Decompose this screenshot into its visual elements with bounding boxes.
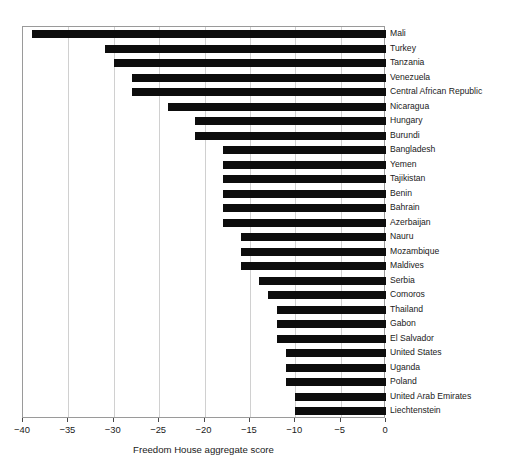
bar-row: [23, 346, 384, 361]
category-label: Turkey: [390, 41, 416, 56]
bar-row: [23, 100, 384, 115]
bar-row: [23, 245, 384, 260]
category-label: Mali: [390, 26, 406, 41]
bar: [223, 146, 386, 154]
x-tick-mark: [340, 418, 341, 422]
category-label: Central African Republic: [390, 84, 482, 99]
category-label: Yemen: [390, 157, 416, 172]
bar: [132, 74, 386, 82]
bar-row: [23, 85, 384, 100]
x-tick-mark: [67, 418, 68, 422]
bar-row: [23, 230, 384, 245]
bar: [259, 277, 386, 285]
bar-row: [23, 375, 384, 390]
bar-row: [23, 129, 384, 144]
bar: [241, 262, 386, 270]
category-label: Tanzania: [390, 55, 424, 70]
bar-row: [23, 114, 384, 129]
category-label: Serbia: [390, 273, 415, 288]
bar: [286, 349, 386, 357]
x-tick-mark: [22, 418, 23, 422]
bar-row: [23, 390, 384, 405]
bar-row: [23, 274, 384, 289]
x-tick-label: −30: [105, 424, 121, 435]
bar: [195, 117, 386, 125]
bar-row: [23, 332, 384, 347]
category-label: Thailand: [390, 302, 423, 317]
bar-row: [23, 27, 384, 42]
category-label: Hungary: [390, 113, 422, 128]
bar: [223, 190, 386, 198]
category-label: Bahrain: [390, 200, 420, 215]
category-label: El Salvador: [390, 331, 434, 346]
bar-series: [23, 27, 384, 417]
category-label: Poland: [390, 374, 417, 389]
x-tick-label: −35: [59, 424, 75, 435]
x-tick-label: −40: [14, 424, 30, 435]
bar: [132, 88, 386, 96]
bar: [286, 364, 386, 372]
category-label: Uganda: [390, 360, 420, 375]
bar: [32, 30, 386, 38]
plot-area: [22, 26, 385, 418]
x-tick-label: −10: [286, 424, 302, 435]
bar: [286, 378, 386, 386]
bar: [241, 248, 386, 256]
category-label: Tajikistan: [390, 171, 425, 186]
bar: [241, 233, 386, 241]
category-label: Liechtenstein: [390, 403, 441, 418]
bar: [268, 291, 386, 299]
bar-row: [23, 56, 384, 71]
x-tick-label: 0: [382, 424, 387, 435]
category-label: United Arab Emirates: [390, 389, 471, 404]
category-label: Maldives: [390, 258, 424, 273]
bar: [277, 335, 386, 343]
x-tick-mark: [385, 418, 386, 422]
bar: [277, 320, 386, 328]
category-label: Venezuela: [390, 70, 430, 85]
category-label: United States: [390, 345, 442, 360]
category-label: Gabon: [390, 316, 416, 331]
bar: [223, 219, 386, 227]
category-label: Bangladesh: [390, 142, 435, 157]
x-tick-label: −15: [241, 424, 257, 435]
category-label: Benin: [390, 186, 412, 201]
category-axis-labels: MaliTurkeyTanzaniaVenezuelaCentral Afric…: [390, 26, 513, 418]
bar: [105, 45, 386, 53]
bar: [223, 204, 386, 212]
bar-row: [23, 42, 384, 57]
x-tick-label: −5: [334, 424, 345, 435]
x-tick-mark: [204, 418, 205, 422]
bar: [277, 306, 386, 314]
category-label: Azerbaijan: [390, 215, 431, 230]
bar-row: [23, 288, 384, 303]
bar: [168, 103, 386, 111]
x-tick-mark: [158, 418, 159, 422]
bar-row: [23, 303, 384, 318]
bar-row: [23, 172, 384, 187]
x-tick-label: −20: [196, 424, 212, 435]
x-tick-label: −25: [150, 424, 166, 435]
bar: [295, 407, 386, 415]
category-label: Nicaragua: [390, 99, 429, 114]
x-tick-mark: [113, 418, 114, 422]
bar: [114, 59, 386, 67]
bar-row: [23, 187, 384, 202]
x-tick-mark: [294, 418, 295, 422]
category-label: Mozambique: [390, 244, 439, 259]
x-axis-title: Freedom House aggregate score: [0, 444, 407, 455]
bar-row: [23, 158, 384, 173]
bar: [223, 175, 386, 183]
bar-row: [23, 216, 384, 231]
bar-row: [23, 143, 384, 158]
category-label: Comoros: [390, 287, 425, 302]
bar: [195, 132, 386, 140]
category-label: Nauru: [390, 229, 413, 244]
bar-row: [23, 201, 384, 216]
bar-row: [23, 71, 384, 86]
bar-row: [23, 317, 384, 332]
category-label: Burundi: [390, 128, 420, 143]
bar: [295, 393, 386, 401]
bar-row: [23, 361, 384, 376]
bar: [223, 161, 386, 169]
